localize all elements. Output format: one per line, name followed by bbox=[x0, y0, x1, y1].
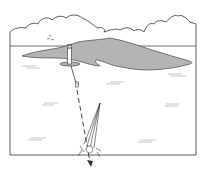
lighthouse-icon bbox=[67, 45, 72, 64]
cloud-outline bbox=[10, 15, 196, 155]
buoy-icon bbox=[76, 82, 79, 87]
nautical-illustration bbox=[0, 0, 209, 176]
course-arrow-icon bbox=[87, 160, 93, 167]
